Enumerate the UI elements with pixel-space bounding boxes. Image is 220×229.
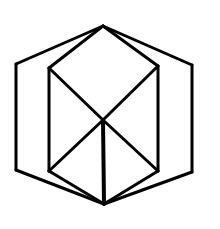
diagram-canvas: Hexagon enclosing a cube wireframe (0, 0, 220, 229)
edge-diag-right-top-to-center (103, 66, 158, 120)
edge-diag-center-to-left-bottom (49, 120, 103, 171)
hexagon-cube-figure (0, 0, 220, 229)
edge-diag-center-to-right-bottom (103, 120, 158, 171)
edge-outer-bottom-left (16, 170, 104, 204)
edge-center-vertical (103, 120, 104, 204)
edge-diag-left-top-to-center (49, 68, 103, 120)
edges-group (16, 26, 192, 204)
